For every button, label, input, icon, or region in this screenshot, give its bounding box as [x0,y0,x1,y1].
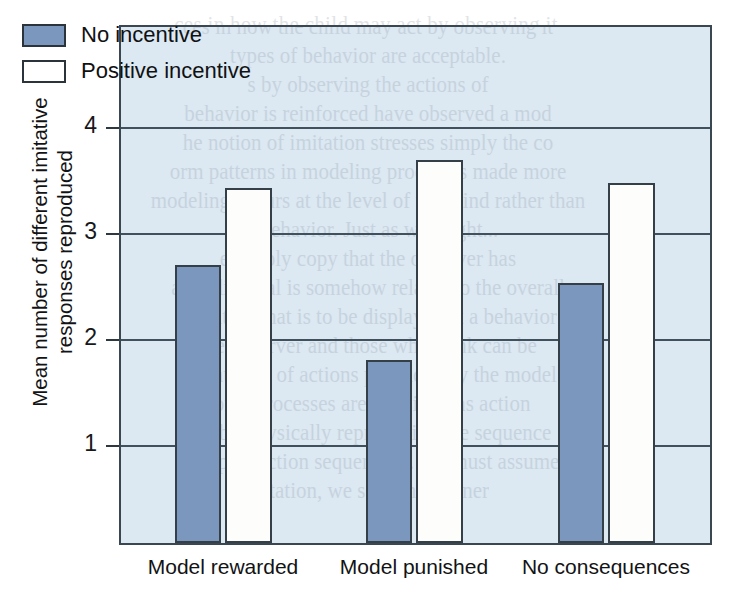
y-tick-mark-2 [106,339,119,341]
y-axis-title: Mean number of different imitative respo… [27,37,77,467]
y-tick-mark-4 [106,127,119,129]
y-tick-label-3: 3 [69,218,97,245]
y-axis-title-line-1: Mean number of different imitative [27,37,52,467]
bar-model-rewarded-positive-incentive [225,188,272,543]
bar-model-rewarded-no-incentive [175,265,221,543]
bar-model-punished-no-incentive [366,360,412,543]
legend-item-positive-incentive: Positive incentive [22,55,251,87]
plot-area: ces in how the child may act by observin… [119,25,712,545]
y-tick-label-1: 1 [69,430,97,457]
bar-model-punished-positive-incentive [416,160,463,543]
bar-chart-figure: Mean number of different imitative respo… [0,0,732,604]
chart-legend: No incentivePositive incentive [22,19,251,91]
legend-swatch-hollow [22,60,66,83]
bleed-text-line: he notion of imitation stresses simply t… [121,129,710,157]
x-tick-label-model-rewarded: Model rewarded [113,555,333,579]
legend-swatch-filled [22,24,66,47]
bleed-text-line: behavior is reinforced have observed a m… [121,100,710,128]
x-tick-label-model-punished: Model punished [304,555,524,579]
bar-no-consequences-positive-incentive [608,183,655,543]
legend-label-positive-incentive: Positive incentive [81,58,251,84]
y-tick-mark-1 [106,445,119,447]
y-tick-label-4: 4 [69,112,97,139]
x-tick-label-no-consequences: No consequences [496,555,716,579]
y-tick-label-2: 2 [69,324,97,351]
bar-no-consequences-no-incentive [558,283,604,543]
y-axis-title-line-2: responses reproduced [52,37,77,467]
legend-item-no-incentive: No incentive [22,19,251,51]
y-tick-mark-3 [106,233,119,235]
legend-label-no-incentive: No incentive [81,22,202,48]
gridline-4 [121,127,710,129]
